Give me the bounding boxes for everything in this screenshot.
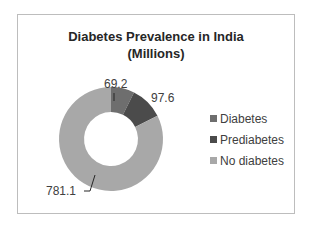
legend-item-diabetes: Diabetes [210,108,284,129]
legend-item-prediabetes: Prediabetes [210,129,284,150]
data-label-prediabetes: 97.6 [151,91,174,105]
legend-swatch-diabetes [210,115,217,122]
legend-label-diabetes: Diabetes [220,112,267,126]
data-label-diabetes: 69.2 [104,77,127,91]
legend-item-no-diabetes: No diabetes [210,150,284,171]
donut-slices [59,87,163,191]
data-label-no-diabetes: 781.1 [46,184,76,198]
legend: Diabetes Prediabetes No diabetes [210,108,284,171]
legend-label-prediabetes: Prediabetes [220,133,284,147]
legend-swatch-prediabetes [210,136,217,143]
legend-label-no-diabetes: No diabetes [220,154,284,168]
legend-swatch-no-diabetes [210,157,217,164]
